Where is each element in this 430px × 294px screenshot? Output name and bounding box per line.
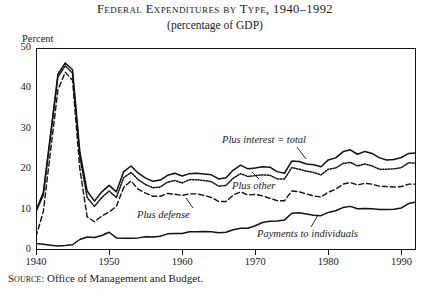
x-tick-label: 1980 [308, 256, 348, 267]
title-block: Federal Expenditures by Type, 1940–1992 … [0, 2, 430, 33]
x-tick-label: 1970 [235, 256, 275, 267]
source-label: Source: [8, 272, 44, 284]
annotation-defense: Plus defense [137, 209, 190, 220]
x-tick-mark [36, 250, 37, 255]
source-text: Office of Management and Budget. [47, 272, 203, 284]
x-tick-label: 1950 [89, 256, 129, 267]
y-tick-label: 40 [9, 81, 31, 92]
source-note: Source: Office of Management and Budget. [8, 272, 203, 284]
series-line [36, 202, 416, 246]
figure-root: Federal Expenditures by Type, 1940–1992 … [0, 0, 430, 294]
x-tick-label: 1990 [381, 256, 421, 267]
annotation-other: Plus other [232, 180, 275, 191]
chart-title: Federal Expenditures by Type, 1940–1992 [0, 2, 430, 17]
plot-area [36, 48, 416, 250]
x-tick-label: 1940 [16, 256, 56, 267]
x-tick-label: 1960 [162, 256, 202, 267]
x-tick-mark [182, 250, 183, 255]
x-tick-mark [328, 250, 329, 255]
x-tick-mark [255, 250, 256, 255]
y-tick-label: 50 [9, 41, 31, 52]
annotation-payments: Payments to individuals [257, 228, 358, 239]
annotation-total: Plus interest = total [222, 134, 306, 145]
y-tick-label: 20 [9, 162, 31, 173]
x-tick-mark [401, 250, 402, 255]
series-lines [36, 48, 416, 250]
y-tick-label: 10 [9, 203, 31, 214]
y-tick-label: 0 [9, 243, 31, 254]
y-tick-label: 30 [9, 122, 31, 133]
x-tick-mark [109, 250, 110, 255]
chart-subtitle: (percentage of GDP) [0, 18, 430, 33]
